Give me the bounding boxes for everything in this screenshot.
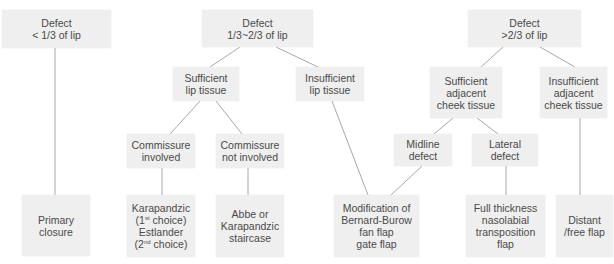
node-sact: Sufficientadjacentcheek tissue bbox=[430, 67, 502, 118]
node-df: Distant/free flap bbox=[556, 195, 613, 257]
edge-ilt-mbb bbox=[332, 101, 368, 195]
node-label: Full thicknessnasolabialtranspositionfla… bbox=[474, 202, 538, 250]
edge-slt-ci bbox=[170, 101, 200, 134]
node-slt: Sufficientlip tissue bbox=[173, 67, 239, 101]
edge-slt-cni bbox=[216, 101, 242, 134]
edge-sact-ld bbox=[477, 118, 498, 134]
node-label: Insufficientadjacentcheek tissue bbox=[544, 75, 602, 111]
edge-md-mbb bbox=[391, 166, 422, 195]
node-iact: Insufficientadjacentcheek tissue bbox=[540, 67, 607, 118]
node-label: Karapandzic(1st choice)Estlander(2nd cho… bbox=[132, 202, 190, 250]
node-ak: Abbe orKarapandzicstaircase bbox=[216, 195, 284, 257]
edge-d2-ilt bbox=[276, 47, 318, 67]
node-label: Commissurenot involved bbox=[221, 139, 280, 163]
edge-sact-md bbox=[434, 118, 453, 134]
node-label: Commissureinvolved bbox=[132, 139, 191, 163]
node-d1: Defect< 1/3 of lip bbox=[2, 10, 111, 48]
edge-d3-sact bbox=[481, 47, 503, 67]
node-label: Primaryclosure bbox=[38, 214, 74, 238]
node-label: Midlinedefect bbox=[406, 138, 439, 162]
node-label: Sufficientadjacentcheek tissue bbox=[437, 75, 495, 111]
node-label: Defect>2/3 of lip bbox=[502, 17, 548, 41]
node-pc: Primaryclosure bbox=[22, 195, 90, 256]
node-ftn: Full thicknessnasolabialtranspositionfla… bbox=[466, 195, 545, 257]
node-md: Midlinedefect bbox=[394, 134, 452, 166]
node-cni: Commissurenot involved bbox=[216, 134, 284, 168]
node-label: Distant/free flap bbox=[564, 214, 605, 238]
node-label: Defect1/3~2/3 of lip bbox=[227, 17, 287, 41]
node-ci: Commissureinvolved bbox=[127, 134, 195, 168]
node-label: Lateraldefect bbox=[489, 138, 521, 162]
node-ld: Lateraldefect bbox=[472, 134, 538, 166]
node-d3: Defect>2/3 of lip bbox=[468, 10, 581, 47]
edge-d2-slt bbox=[210, 47, 240, 67]
node-d2: Defect1/3~2/3 of lip bbox=[202, 10, 313, 47]
node-ke: Karapandzic(1st choice)Estlander(2nd cho… bbox=[127, 195, 195, 257]
node-label: Abbe orKarapandzicstaircase bbox=[221, 208, 279, 244]
node-mbb: Modification ofBernard-Burowfan flapgate… bbox=[334, 195, 419, 257]
node-label: Insufficientlip tissue bbox=[305, 72, 355, 96]
edge-d3-iact bbox=[540, 47, 575, 67]
node-label: Modification ofBernard-Burowfan flapgate… bbox=[341, 202, 412, 250]
node-label: Sufficientlip tissue bbox=[185, 72, 228, 96]
node-label: Defect< 1/3 of lip bbox=[32, 17, 81, 41]
node-ilt: Insufficientlip tissue bbox=[296, 67, 364, 101]
